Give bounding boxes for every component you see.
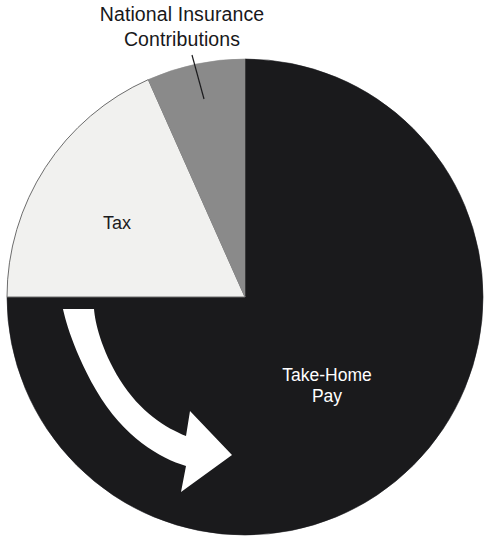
pie-chart-canvas: National Insurance Contributions Tax Tak… (0, 0, 489, 546)
pie-chart-figure: National Insurance Contributions Tax Tak… (0, 0, 489, 546)
nic-callout-line1: National Insurance (100, 3, 264, 25)
slice-label-take-home-line1: Take-Home (282, 365, 371, 385)
nic-callout-line2: Contributions (124, 28, 240, 50)
slice-label-take-home-line2: Pay (312, 386, 342, 406)
slice-label-tax: Tax (103, 213, 131, 233)
